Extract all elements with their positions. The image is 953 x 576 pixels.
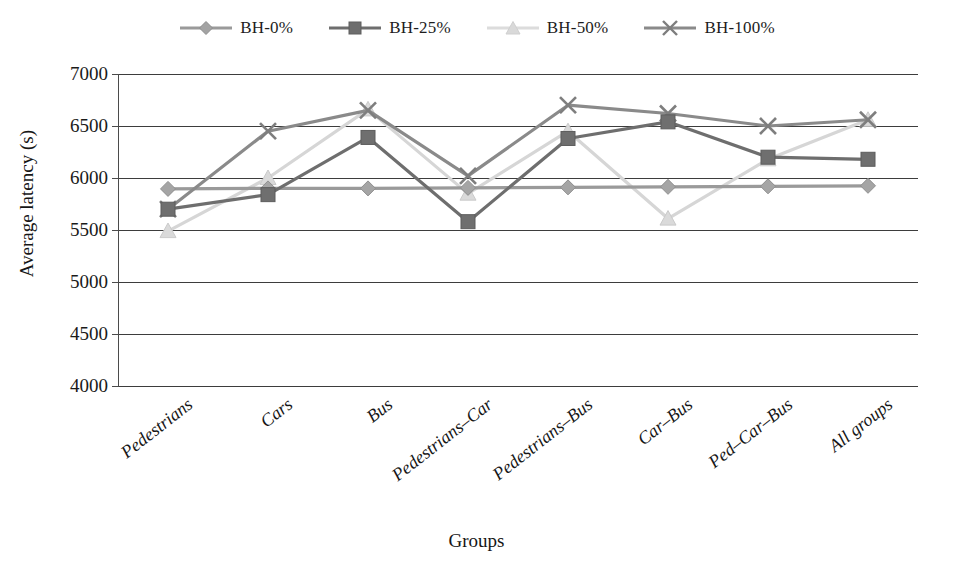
gridline (118, 230, 918, 231)
x-tick-label: Pedestrians (117, 394, 197, 463)
x-marker-icon (642, 19, 698, 37)
x-tick-label: Car–Bus (634, 394, 697, 450)
y-tick-label: 4500 (70, 323, 108, 345)
gridline (118, 74, 918, 75)
y-tick-mark (112, 334, 119, 335)
x-axis-title: Groups (0, 530, 953, 552)
y-tick-mark (112, 178, 119, 179)
y-tick-mark (112, 282, 119, 283)
x-tick-label: Ped–Car–Bus (704, 394, 797, 473)
y-tick-mark (112, 386, 119, 387)
y-tick-label: 7000 (70, 63, 108, 85)
triangle-marker-icon (485, 19, 541, 37)
legend-item-bh-25[interactable]: BH-25% (327, 18, 451, 38)
gridline (118, 178, 918, 179)
x-tick-label: Pedestrians–Bus (489, 394, 597, 485)
legend-label-bh-0: BH-0% (240, 18, 293, 38)
gridline (118, 282, 918, 283)
y-tick-mark (112, 74, 119, 75)
gridline (118, 334, 918, 335)
legend-item-bh-100[interactable]: BH-100% (642, 18, 774, 38)
legend-item-bh-50[interactable]: BH-50% (485, 18, 609, 38)
legend-label-bh-50: BH-50% (547, 18, 609, 38)
gridline (118, 126, 918, 127)
x-tick-label: Pedestrians–Car (388, 394, 497, 486)
y-tick-mark (112, 230, 119, 231)
x-tick-label: Bus (363, 394, 397, 427)
diamond-marker-icon (178, 19, 234, 37)
x-tick-label: All groups (825, 394, 897, 457)
legend-label-bh-25: BH-25% (389, 18, 451, 38)
chart-legend: BH-0% BH-25% BH-50% (0, 18, 953, 38)
y-tick-label: 4000 (70, 375, 108, 397)
latency-line-chart: BH-0% BH-25% BH-50% (0, 0, 953, 576)
plot-area: 7000650060005500500045004000 (118, 74, 918, 386)
y-tick-label: 5500 (70, 219, 108, 241)
y-tick-label: 5000 (70, 271, 108, 293)
y-axis-title: Average latency (s) (16, 130, 46, 277)
gridline (118, 386, 918, 387)
y-tick-mark (112, 126, 119, 127)
x-tick-label: Cars (256, 394, 297, 432)
legend-item-bh-0[interactable]: BH-0% (178, 18, 293, 38)
y-tick-label: 6000 (70, 167, 108, 189)
square-marker-icon (327, 19, 383, 37)
legend-label-bh-100: BH-100% (704, 18, 774, 38)
y-tick-label: 6500 (70, 115, 108, 137)
